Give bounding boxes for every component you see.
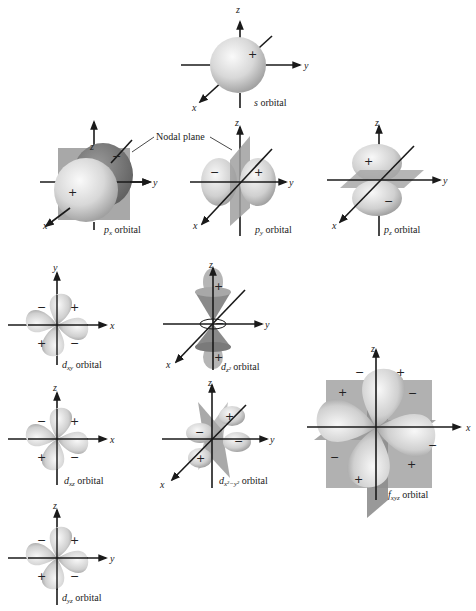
dx2y2-orbital: z y x − + − + dx²−y² orbital [159,377,275,490]
svg-text:+: + [214,280,223,293]
nodal-plane-callout: Nodal plane [132,131,232,152]
svg-text:z: z [234,117,239,128]
pz-orbital: z y x + − pz orbital [327,117,448,237]
svg-text:dx²−y² orbital: dx²−y² orbital [219,475,268,488]
s-sphere [210,37,266,93]
svg-text:−: − [37,415,46,428]
svg-text:−: − [408,387,417,400]
svg-text:dxy orbital: dxy orbital [62,359,102,372]
svg-text:x: x [465,422,471,433]
svg-text:−: − [70,451,79,464]
svg-text:−: − [384,195,393,208]
svg-text:y: y [303,60,309,71]
svg-text:y: y [52,262,58,273]
svg-text:z: z [208,259,213,270]
svg-text:x: x [109,320,115,331]
orbital-diagram: z y x + s orbital z y x + − px orbital N… [0,0,476,611]
svg-text:Nodal plane: Nodal plane [156,131,205,142]
sign-plus: + [248,48,257,61]
py-orbital: z y x − + py orbital [190,117,294,237]
svg-text:y: y [442,175,448,186]
svg-text:x: x [42,220,48,231]
svg-text:−: − [70,337,79,350]
svg-text:+: + [338,386,347,399]
svg-text:x: x [331,220,337,231]
svg-text:dz² orbital: dz² orbital [221,361,260,374]
pz-negative-lobe [352,180,402,216]
px-orbital: z y x + − px orbital [40,122,158,237]
svg-text:+: + [396,366,405,379]
svg-text:+: + [354,473,363,486]
svg-text:x: x [192,220,198,231]
s-orbital: z y x + s orbital [181,4,309,113]
svg-text:+: + [70,534,79,547]
svg-text:−: − [37,534,46,547]
svg-text:fxyz orbital: fxyz orbital [388,489,429,502]
svg-text:+: + [37,451,46,464]
svg-text:s orbital: s orbital [254,97,287,108]
svg-text:x: x [165,359,171,370]
svg-text:−: − [70,570,79,583]
svg-text:px orbital: px orbital [103,224,141,237]
svg-text:−: − [37,301,46,314]
dxy-orbital: y x − + + − dxy orbital [8,262,115,372]
svg-text:y: y [109,553,115,564]
svg-text:+: + [68,186,77,199]
svg-text:z: z [52,500,57,511]
svg-text:−: − [234,435,243,448]
svg-text:+: + [254,166,263,179]
svg-text:z: z [207,377,212,388]
svg-text:+: + [196,452,205,465]
svg-text:y: y [269,434,275,445]
svg-text:−: − [330,451,339,464]
svg-text:y: y [264,319,270,330]
fxyz-orbital: z x − + + − − − + + fxyz orbital [307,343,471,518]
svg-text:+: + [37,337,46,350]
svg-text:z: z [374,117,379,128]
svg-text:y: y [288,177,294,188]
svg-text:+: + [364,155,373,168]
svg-text:+: + [225,410,234,423]
svg-text:+: + [407,458,416,471]
svg-text:z: z [89,141,94,152]
svg-text:dxz orbital: dxz orbital [64,475,104,488]
svg-text:−: − [215,317,224,330]
svg-text:y: y [152,177,158,188]
svg-text:−: − [112,150,121,163]
dxz-orbital: z x − + + − dxz orbital [8,382,115,488]
svg-text:pz orbital: pz orbital [383,224,421,237]
svg-text:z: z [235,4,240,15]
svg-text:z: z [52,382,57,393]
svg-text:−: − [210,166,219,179]
svg-text:+: + [70,301,79,314]
svg-text:z: z [370,343,375,354]
svg-text:−: − [428,439,437,452]
svg-text:+: + [37,570,46,583]
svg-text:dyz orbital: dyz orbital [62,592,102,605]
svg-text:py orbital: py orbital [254,224,292,237]
svg-text:x: x [159,479,165,490]
svg-text:x: x [191,102,197,113]
svg-text:−: − [195,426,204,439]
svg-text:+: + [70,415,79,428]
svg-text:−: − [355,366,364,379]
dyz-orbital: z y − + + − dyz orbital [8,500,115,605]
svg-text:x: x [109,434,115,445]
dz2-orbital: z y x + + − dz² orbital [163,259,270,374]
